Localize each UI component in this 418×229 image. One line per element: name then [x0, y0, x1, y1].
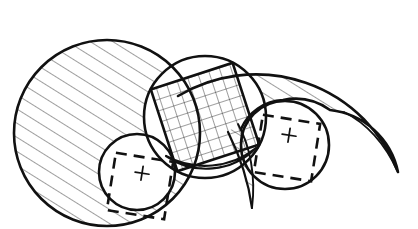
right-center-cross-icon	[281, 127, 297, 143]
figure-svg	[0, 0, 418, 229]
right-dashed-square-outline[interactable]	[254, 115, 320, 181]
right-crescent-inner-edge	[344, 112, 398, 172]
right-dashed-square[interactable]	[254, 115, 320, 181]
hatched-fill-layer	[0, 0, 418, 229]
geometric-figure-canvas	[0, 0, 418, 229]
